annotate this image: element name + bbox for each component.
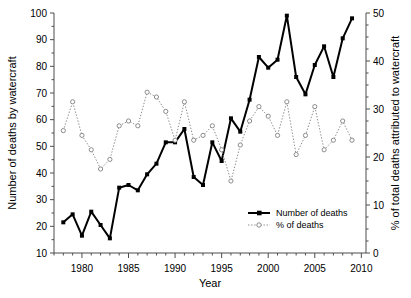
- x-tick-label: 2010: [350, 263, 373, 274]
- data-point-deaths: [331, 75, 335, 79]
- data-point-deaths: [108, 236, 112, 240]
- data-point-deaths: [341, 36, 345, 40]
- data-point-pct: [331, 138, 335, 142]
- data-point-pct: [303, 133, 307, 137]
- legend-label-pct: % of deaths: [276, 220, 324, 230]
- y-tick-label: 80: [36, 61, 48, 72]
- y-tick-label: 40: [36, 168, 48, 179]
- data-point-pct: [145, 90, 149, 94]
- data-point-deaths: [201, 183, 205, 187]
- data-point-deaths: [220, 159, 224, 163]
- data-point-pct: [285, 100, 289, 104]
- data-point-deaths: [164, 140, 168, 144]
- x-tick-label: 1990: [164, 263, 187, 274]
- data-point-pct: [247, 119, 251, 123]
- data-point-deaths: [285, 14, 289, 18]
- data-point-pct: [136, 124, 140, 128]
- x-tick-label: 2000: [257, 263, 280, 274]
- data-point-deaths: [322, 44, 326, 48]
- y-tick-label: 60: [36, 114, 48, 125]
- data-point-pct: [350, 138, 354, 142]
- data-point-deaths: [238, 130, 242, 134]
- data-point-pct: [220, 148, 224, 152]
- y2-tick-label: 40: [373, 56, 385, 67]
- data-point-deaths: [303, 92, 307, 96]
- data-point-deaths: [136, 188, 140, 192]
- data-point-pct: [192, 138, 196, 142]
- data-point-pct: [108, 157, 112, 161]
- data-point-pct: [182, 100, 186, 104]
- data-point-deaths: [61, 220, 65, 224]
- legend-label-deaths: Number of deaths: [276, 208, 348, 218]
- chart-container: 1020304050607080901000102030405019801985…: [0, 0, 411, 298]
- data-point-deaths: [313, 63, 317, 67]
- data-point-deaths: [248, 98, 252, 102]
- data-point-pct: [313, 105, 317, 109]
- data-point-deaths: [154, 162, 158, 166]
- y-tick-label: 100: [30, 8, 47, 19]
- y2-tick-label: 50: [373, 8, 385, 19]
- data-point-pct: [294, 153, 298, 157]
- data-point-deaths: [257, 55, 261, 59]
- data-point-pct: [154, 95, 158, 99]
- data-point-pct: [257, 105, 261, 109]
- data-point-pct: [71, 100, 75, 104]
- y2-tick-label: 20: [373, 152, 385, 163]
- data-point-pct: [164, 109, 168, 113]
- data-point-deaths: [89, 210, 93, 214]
- x-tick-label: 1995: [211, 263, 234, 274]
- y2-tick-label: 30: [373, 104, 385, 115]
- data-point-pct: [98, 167, 102, 171]
- y-tick-label: 50: [36, 141, 48, 152]
- data-point-pct: [238, 143, 242, 147]
- x-axis-title: Year: [199, 277, 222, 289]
- x-tick-label: 2005: [304, 263, 327, 274]
- data-point-pct: [126, 119, 130, 123]
- data-point-deaths: [192, 175, 196, 179]
- data-point-pct: [322, 148, 326, 152]
- y2-axis-title: % of total deaths attributed to watercra…: [389, 36, 401, 230]
- data-point-deaths: [80, 234, 84, 238]
- series-line-deaths: [63, 16, 352, 239]
- data-point-deaths: [127, 183, 131, 187]
- data-point-deaths: [229, 116, 233, 120]
- data-point-pct: [229, 179, 233, 183]
- data-point-deaths: [210, 140, 214, 144]
- data-point-pct: [266, 114, 270, 118]
- data-point-pct: [89, 148, 93, 152]
- data-point-pct: [341, 119, 345, 123]
- y2-tick-label: 0: [373, 248, 379, 259]
- data-point-pct: [173, 138, 177, 142]
- y-axis-title: Number of deaths by watercraft: [6, 56, 18, 209]
- legend-marker-pct: [257, 223, 261, 227]
- y-tick-label: 10: [36, 248, 48, 259]
- data-point-deaths: [99, 223, 103, 227]
- data-point-pct: [210, 124, 214, 128]
- y-tick-label: 20: [36, 221, 48, 232]
- legend-marker-deaths: [257, 211, 262, 216]
- data-point-deaths: [117, 186, 121, 190]
- y-tick-label: 90: [36, 34, 48, 45]
- data-point-deaths: [266, 66, 270, 70]
- data-point-pct: [275, 133, 279, 137]
- data-point-deaths: [71, 212, 75, 216]
- data-point-pct: [61, 129, 65, 133]
- watercraft-deaths-line-chart: 1020304050607080901000102030405019801985…: [0, 0, 411, 298]
- data-point-pct: [117, 124, 121, 128]
- data-point-deaths: [145, 172, 149, 176]
- data-point-deaths: [276, 58, 280, 62]
- data-point-deaths: [294, 75, 298, 79]
- data-point-pct: [201, 133, 205, 137]
- data-point-pct: [80, 133, 84, 137]
- data-point-deaths: [182, 127, 186, 131]
- x-tick-label: 1980: [71, 263, 94, 274]
- y-tick-label: 70: [36, 88, 48, 99]
- y-tick-label: 30: [36, 194, 48, 205]
- x-tick-label: 1985: [117, 263, 140, 274]
- data-point-deaths: [350, 16, 354, 20]
- y2-tick-label: 10: [373, 200, 385, 211]
